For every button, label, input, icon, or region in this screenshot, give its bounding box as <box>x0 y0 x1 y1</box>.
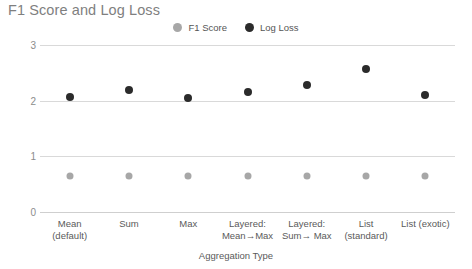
x-tick-label-line: (default) <box>52 230 87 242</box>
data-point[interactable] <box>66 173 73 180</box>
data-point[interactable] <box>303 173 310 180</box>
legend-label-log-loss: Log Loss <box>260 22 299 33</box>
data-point[interactable] <box>363 173 370 180</box>
legend-label-f1-score: F1 Score <box>188 22 227 33</box>
y-tick-label-1: 1 <box>2 151 36 162</box>
x-tick-label-line: Sum→ Max <box>282 230 332 242</box>
x-tick-label: Layered:Mean→Max <box>222 218 273 241</box>
gridline-2 <box>40 101 455 102</box>
x-tick-label-line: Max <box>179 218 197 230</box>
x-tick-label-line: Layered: <box>222 218 273 230</box>
data-point[interactable] <box>185 173 192 180</box>
data-point[interactable] <box>422 173 429 180</box>
x-axis-ticks: Mean(default)SumMaxLayered:Mean→MaxLayer… <box>40 214 455 246</box>
x-tick-label: Sum <box>119 218 139 230</box>
data-point[interactable] <box>125 173 132 180</box>
legend-item-f1-score[interactable]: F1 Score <box>173 22 227 33</box>
x-tick-label: List(standard) <box>344 218 387 241</box>
data-point[interactable] <box>303 81 311 89</box>
data-point[interactable] <box>362 65 370 73</box>
x-tick-label-line: Layered: <box>282 218 332 230</box>
data-point[interactable] <box>244 173 251 180</box>
gridline-3 <box>40 45 455 46</box>
legend-swatch-f1-score <box>173 23 182 32</box>
x-tick-label-line: List (exotic) <box>401 218 450 230</box>
data-point[interactable] <box>184 94 192 102</box>
y-tick-label-2: 2 <box>2 95 36 106</box>
chart-title: F1 Score and Log Loss <box>8 2 160 18</box>
x-tick-label-line: Mean→Max <box>222 230 273 242</box>
y-tick-label-0: 0 <box>2 207 36 218</box>
gridline-0 <box>40 212 455 213</box>
x-tick-label-line: Mean <box>52 218 87 230</box>
chart-legend: F1 Score Log Loss <box>0 22 472 33</box>
y-tick-label-3: 3 <box>2 40 36 51</box>
data-point[interactable] <box>244 88 252 96</box>
x-tick-label: List (exotic) <box>401 218 450 230</box>
legend-item-log-loss[interactable]: Log Loss <box>245 22 299 33</box>
y-axis-ticks: 0123 <box>0 45 36 212</box>
data-point[interactable] <box>125 86 133 94</box>
x-tick-label-line: Sum <box>119 218 139 230</box>
chart-container: F1 Score and Log Loss F1 Score Log Loss … <box>0 0 472 269</box>
data-point[interactable] <box>66 93 74 101</box>
legend-swatch-log-loss <box>245 23 254 32</box>
x-tick-label-line: List <box>344 218 387 230</box>
x-tick-label-line: (standard) <box>344 230 387 242</box>
x-tick-label: Layered:Sum→ Max <box>282 218 332 241</box>
x-axis-title: Aggregation Type <box>0 250 472 261</box>
plot-area <box>40 45 455 212</box>
x-tick-label: Mean(default) <box>52 218 87 241</box>
gridline-1 <box>40 156 455 157</box>
x-tick-label: Max <box>179 218 197 230</box>
data-point[interactable] <box>421 91 429 99</box>
